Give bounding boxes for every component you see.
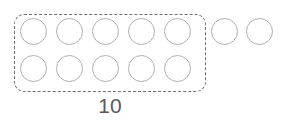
counter-circle [20, 18, 47, 45]
counter-circle [164, 55, 191, 82]
counter-circle [56, 18, 83, 45]
counter-circle [92, 18, 119, 45]
diagram-canvas: 10 [0, 0, 285, 124]
counter-circle [246, 18, 273, 45]
counter-circle [56, 55, 83, 82]
counter-circle [128, 18, 155, 45]
counter-circle [20, 55, 47, 82]
counter-circle [164, 18, 191, 45]
counter-circle [92, 55, 119, 82]
counter-circle [211, 18, 238, 45]
group-count-label: 10 [14, 95, 206, 116]
counter-circle [128, 55, 155, 82]
